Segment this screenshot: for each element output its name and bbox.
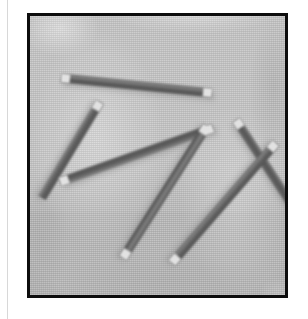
ground-vignette [30, 16, 285, 295]
page-root: threaded rods scattered on a textured su… [0, 0, 308, 319]
photo-subject-description: threaded rods scattered on a textured su… [0, 0, 1, 1]
photograph-canvas [30, 16, 285, 295]
page-left-rule [7, 0, 8, 319]
photo-frame [27, 13, 288, 298]
